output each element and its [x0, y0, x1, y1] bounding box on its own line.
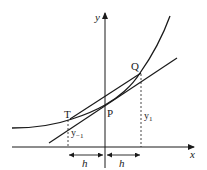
- diagram-canvas: y x T P Q y−1 y1 h h: [0, 0, 207, 170]
- point-T-label: T: [64, 108, 71, 120]
- x-axis-label: x: [189, 148, 195, 160]
- point-P-label: P: [107, 107, 113, 119]
- point-Q-label: Q: [131, 60, 139, 72]
- ordinate-label-y-minus-1: y−1: [71, 127, 84, 140]
- interval-h-right: h: [119, 157, 125, 169]
- tangent-at-P: [49, 58, 177, 143]
- ordinate-label-y-1: y1: [144, 110, 153, 123]
- y-axis-label: y: [94, 11, 100, 23]
- interval-h-left: h: [82, 157, 88, 169]
